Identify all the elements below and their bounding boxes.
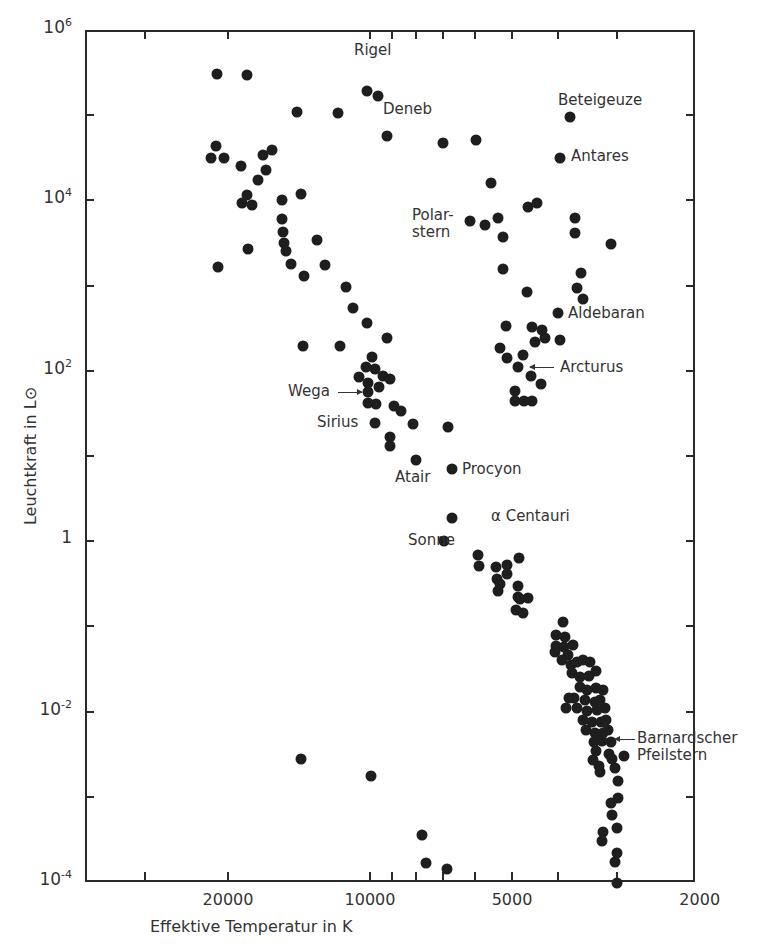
- star-point: [382, 333, 393, 344]
- y-tick: [686, 540, 695, 542]
- y-tick: [686, 625, 695, 627]
- star-point: [267, 145, 278, 156]
- y-tick: [85, 540, 94, 542]
- x-tick-label: 5000: [492, 890, 533, 909]
- y-tick-label: 10-2: [12, 698, 72, 719]
- x-tick: [415, 872, 417, 881]
- star-point: [278, 227, 289, 238]
- star-point: [523, 593, 534, 604]
- star-point: [335, 341, 346, 352]
- y-tick: [85, 199, 94, 201]
- wega-arrow: [338, 392, 362, 393]
- star-point: [526, 371, 537, 382]
- label-atair: Atair: [395, 469, 430, 486]
- label-rigel: Rigel: [354, 42, 392, 59]
- star-point: [495, 343, 506, 354]
- star-point: [286, 259, 297, 270]
- star-point: [591, 666, 602, 677]
- star-point: [572, 283, 583, 294]
- star-point: [607, 810, 618, 821]
- arcturus-arrow: [530, 367, 554, 368]
- star-point: [612, 823, 623, 834]
- star-point: [606, 239, 617, 250]
- star-point: [211, 141, 222, 152]
- star-point: [610, 763, 621, 774]
- x-axis-title: Effektive Temperatur in K: [150, 917, 352, 936]
- star-point: [367, 352, 378, 363]
- star-point: [578, 294, 589, 305]
- star-point: [532, 198, 543, 209]
- y-tick-label: 104: [12, 186, 72, 207]
- y-tick: [686, 114, 695, 116]
- star-point: [518, 350, 529, 361]
- y-tick: [686, 285, 695, 287]
- star-point: [527, 396, 538, 407]
- x-tick: [474, 872, 476, 881]
- star-point: [236, 161, 247, 172]
- star-point: [385, 441, 396, 452]
- star-point: [553, 308, 564, 319]
- x-tick: [369, 872, 371, 881]
- x-tick-label: 2000: [679, 890, 720, 909]
- star-point: [296, 189, 307, 200]
- star-point: [597, 836, 608, 847]
- y-tick: [686, 370, 695, 372]
- y-tick: [85, 711, 94, 713]
- star-point: [253, 175, 264, 186]
- star-point: [292, 107, 303, 118]
- star-point: [320, 260, 331, 271]
- star-point: [600, 703, 611, 714]
- x-tick: [557, 30, 559, 39]
- star-point: [212, 69, 223, 80]
- star-point: [603, 725, 614, 736]
- star-point: [348, 303, 359, 314]
- y-tick: [85, 455, 94, 457]
- star-point: [514, 553, 525, 564]
- star-point: [474, 561, 485, 572]
- label-wega: Wega: [288, 383, 330, 400]
- x-tick: [227, 872, 229, 881]
- x-tick: [144, 872, 146, 881]
- star-point: [333, 108, 344, 119]
- star-point: [362, 86, 373, 97]
- label-deneb: Deneb: [383, 101, 432, 118]
- y-tick-label: 106: [12, 16, 72, 37]
- star-point: [374, 382, 385, 393]
- star-point: [371, 399, 382, 410]
- star-point: [247, 200, 258, 211]
- star-point: [540, 333, 551, 344]
- star-point: [242, 70, 253, 81]
- y-tick-label: 102: [12, 357, 72, 378]
- x-tick: [616, 30, 618, 39]
- star-point: [277, 214, 288, 225]
- x-tick: [144, 30, 146, 39]
- star-point: [370, 418, 381, 429]
- star-point: [518, 608, 529, 619]
- star-point: [438, 138, 449, 149]
- star-point: [382, 131, 393, 142]
- x-tick: [442, 30, 444, 39]
- star-point: [619, 751, 630, 762]
- star-point: [261, 165, 272, 176]
- x-tick: [369, 30, 371, 39]
- x-tick: [511, 872, 513, 881]
- y-tick: [686, 199, 695, 201]
- star-point: [396, 406, 407, 417]
- star-point: [610, 857, 621, 868]
- star-point: [493, 213, 504, 224]
- star-point: [417, 830, 428, 841]
- star-point: [595, 767, 606, 778]
- star-point: [341, 282, 352, 293]
- star-point: [473, 550, 484, 561]
- label-sonne: Sonne: [408, 532, 455, 549]
- y-tick: [686, 455, 695, 457]
- star-point: [465, 216, 476, 227]
- star-point: [570, 228, 581, 239]
- star-point: [480, 220, 491, 231]
- star-point: [513, 362, 524, 373]
- star-point: [219, 153, 230, 164]
- star-point: [373, 91, 384, 102]
- y-tick: [85, 370, 94, 372]
- star-point: [363, 387, 374, 398]
- star-point: [206, 153, 217, 164]
